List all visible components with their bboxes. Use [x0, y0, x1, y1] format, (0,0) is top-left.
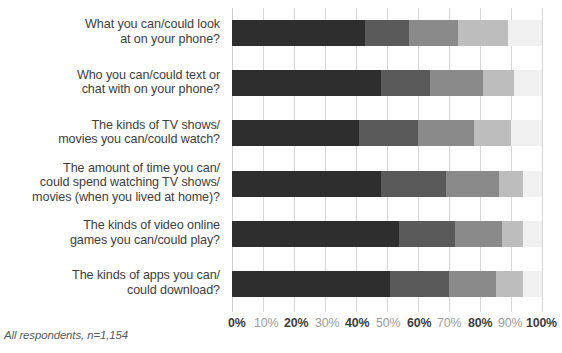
gridline-90pct — [511, 8, 512, 312]
bar-segment-1[interactable] — [232, 20, 365, 46]
gridline-10pct — [263, 8, 264, 312]
x-tick-label-0pct: 0% — [228, 316, 246, 330]
gridline-70pct — [449, 8, 450, 312]
bar-segment-4[interactable] — [483, 70, 514, 96]
category-label-line: The kinds of apps you can/ — [0, 268, 220, 283]
chart-footnote: All respondents, n=1,154 — [4, 329, 128, 341]
bar-segment-2[interactable] — [381, 171, 446, 197]
bar-segment-3[interactable] — [449, 271, 496, 297]
gridline-50pct — [387, 8, 388, 312]
bar-segment-3[interactable] — [430, 70, 483, 96]
bar-segment-5[interactable] — [523, 271, 542, 297]
gridline-40pct — [356, 8, 357, 312]
category-label: The kinds of video onlinegames you can/c… — [0, 218, 220, 247]
bar-row[interactable] — [232, 221, 542, 247]
x-tick-label-30pct: 30% — [315, 316, 339, 330]
x-tick-label-90pct: 90% — [498, 316, 522, 330]
category-label-line: The amount of time you can/ — [0, 161, 220, 176]
bar-row[interactable] — [232, 70, 542, 96]
bar-segment-4[interactable] — [474, 120, 511, 146]
gridline-60pct — [418, 8, 419, 312]
x-tick-label-70pct: 70% — [437, 316, 461, 330]
bar-segment-1[interactable] — [232, 120, 359, 146]
category-label: The amount of time you can/could spend w… — [0, 161, 220, 205]
bar-segment-3[interactable] — [409, 20, 459, 46]
gridline-30pct — [325, 8, 326, 312]
category-label: What you can/could lookat on your phone? — [0, 17, 220, 46]
bar-segment-2[interactable] — [359, 120, 418, 146]
bar-segment-5[interactable] — [514, 70, 542, 96]
category-label-line: at on your phone? — [0, 32, 220, 47]
gridline-20pct — [294, 8, 295, 312]
category-label-line: games you can/could play? — [0, 233, 220, 248]
bar-segment-2[interactable] — [399, 221, 455, 247]
bar-row[interactable] — [232, 271, 542, 297]
bar-segment-2[interactable] — [381, 70, 431, 96]
bar-segment-3[interactable] — [418, 120, 474, 146]
bar-segment-5[interactable] — [508, 20, 542, 46]
bar-row[interactable] — [232, 120, 542, 146]
category-label-column: What you can/could lookat on your phone?… — [0, 0, 228, 310]
category-label-line: Who you can/could text or — [0, 68, 220, 83]
category-label-line: could download? — [0, 283, 220, 298]
bar-row[interactable] — [232, 171, 542, 197]
x-tick-label-40pct: 40% — [345, 316, 369, 330]
bar-segment-4[interactable] — [458, 20, 508, 46]
bar-segment-2[interactable] — [365, 20, 408, 46]
category-label: The kinds of apps you can/could download… — [0, 268, 220, 297]
category-label-line: chat with on your phone? — [0, 82, 220, 97]
bar-segment-1[interactable] — [232, 171, 381, 197]
x-tick-label-80pct: 80% — [468, 316, 492, 330]
bar-segment-1[interactable] — [232, 271, 390, 297]
bar-segment-5[interactable] — [511, 120, 542, 146]
bar-segment-1[interactable] — [232, 221, 399, 247]
gridline-100pct — [542, 8, 543, 312]
category-label-line: could spend watching TV shows/ — [0, 175, 220, 190]
bar-segment-2[interactable] — [390, 271, 449, 297]
bar-segment-5[interactable] — [523, 221, 542, 247]
category-label-line: movies you can/could watch? — [0, 132, 220, 147]
bar-segment-1[interactable] — [232, 70, 381, 96]
x-axis-tick-labels: 0%10%20%30%40%50%60%70%80%90%100% — [232, 316, 562, 332]
gridline-80pct — [480, 8, 481, 312]
x-tick-label-100pct: 100% — [526, 316, 557, 330]
category-label-line: The kinds of TV shows/ — [0, 118, 220, 133]
category-label: Who you can/could text orchat with on yo… — [0, 68, 220, 97]
bar-segment-4[interactable] — [502, 221, 524, 247]
category-label-line: The kinds of video online — [0, 218, 220, 233]
category-label: The kinds of TV shows/movies you can/cou… — [0, 118, 220, 147]
category-label-line: What you can/could look — [0, 17, 220, 32]
x-tick-label-10pct: 10% — [254, 316, 278, 330]
bar-segment-4[interactable] — [496, 271, 524, 297]
bar-segment-3[interactable] — [455, 221, 502, 247]
x-tick-label-50pct: 50% — [376, 316, 400, 330]
bar-segment-5[interactable] — [523, 171, 542, 197]
plot-area — [232, 8, 542, 312]
category-label-line: movies (when you lived at home)? — [0, 190, 220, 205]
x-tick-label-60pct: 60% — [407, 316, 431, 330]
bar-row[interactable] — [232, 20, 542, 46]
bar-segment-3[interactable] — [446, 171, 499, 197]
bar-segment-4[interactable] — [499, 171, 524, 197]
stacked-bar-chart: What you can/could lookat on your phone?… — [0, 0, 562, 353]
x-tick-label-20pct: 20% — [284, 316, 308, 330]
gridline-0pct — [232, 8, 233, 312]
